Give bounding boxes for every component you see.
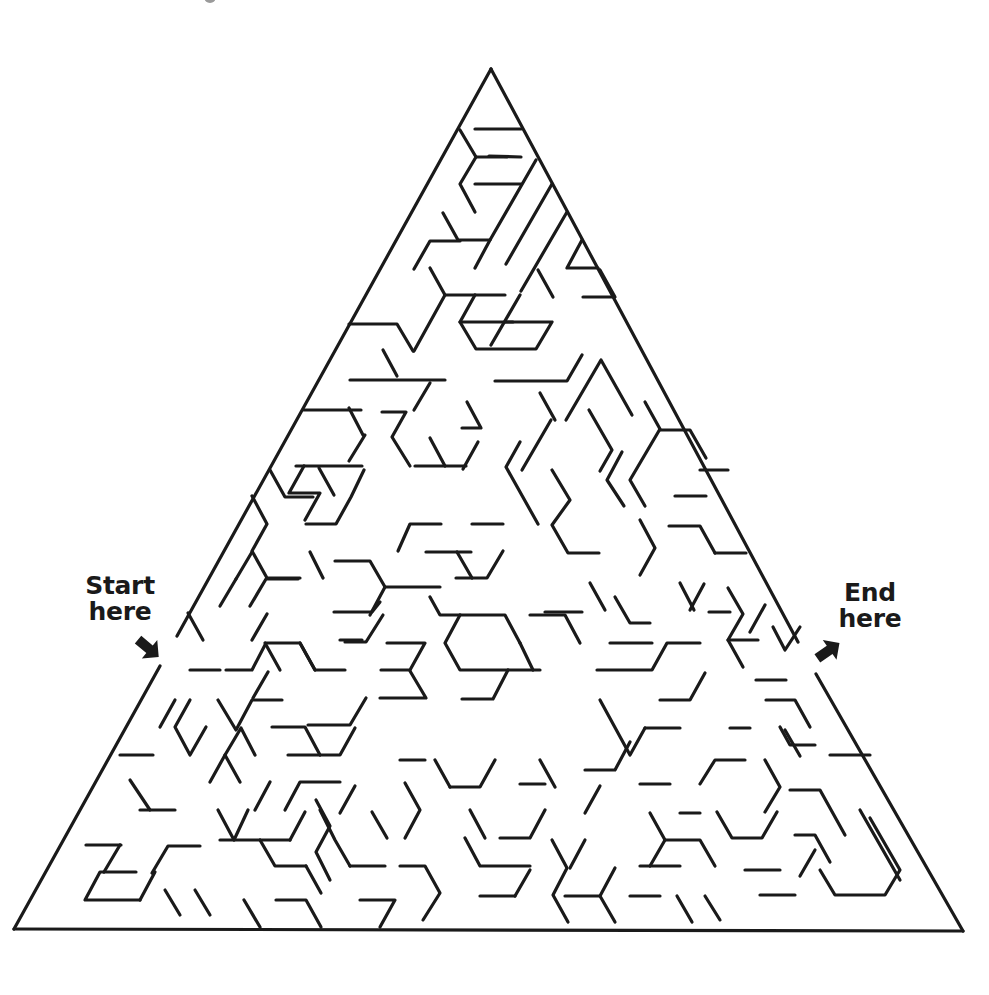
maze-wall xyxy=(522,420,551,470)
maze-wall xyxy=(414,295,445,351)
maze-outer-border xyxy=(14,69,963,931)
maze-wall xyxy=(552,840,568,922)
maze-wall xyxy=(319,468,334,495)
maze xyxy=(0,0,989,995)
maze-wall xyxy=(470,810,485,838)
maze-wall xyxy=(630,402,660,506)
maze-wall xyxy=(650,813,665,866)
maze-wall xyxy=(308,698,366,725)
maze-right-edge-upper xyxy=(491,69,798,642)
maze-wall xyxy=(565,868,615,896)
maze-wall xyxy=(405,783,420,838)
maze-wall xyxy=(445,615,540,670)
maze-wall xyxy=(860,810,900,880)
maze-wall xyxy=(457,552,472,578)
maze-wall xyxy=(585,742,630,770)
maze-wall xyxy=(590,583,605,610)
maze-wall xyxy=(265,643,280,670)
maze-wall xyxy=(750,605,765,632)
maze-wall xyxy=(383,350,397,376)
maze-wall xyxy=(669,526,715,553)
maze-wall xyxy=(195,890,210,915)
start-label-line1: Start xyxy=(78,573,162,599)
maze-wall xyxy=(289,466,320,520)
maze-wall xyxy=(450,760,495,787)
maze-left-edge-lower xyxy=(14,666,160,929)
maze-wall xyxy=(790,790,845,835)
maze-wall xyxy=(310,552,323,578)
maze-wall xyxy=(285,782,340,810)
maze-wall xyxy=(165,890,180,915)
maze-wall xyxy=(430,597,520,643)
maze-wall xyxy=(255,782,270,810)
maze-wall xyxy=(382,412,410,466)
maze-wall xyxy=(506,442,538,524)
maze-wall xyxy=(380,671,426,698)
maze-wall xyxy=(253,672,268,698)
maze-wall xyxy=(210,755,240,782)
maze-wall xyxy=(495,355,582,381)
maze-wall xyxy=(349,324,413,351)
maze-wall xyxy=(765,760,780,812)
maze-wall xyxy=(188,613,203,640)
maze-wall xyxy=(566,360,632,420)
maze-wall xyxy=(226,643,345,670)
maze-bottom-edge xyxy=(14,929,963,931)
maze-wall xyxy=(288,728,355,755)
maze-wall xyxy=(665,840,715,866)
maze-wall xyxy=(660,673,705,700)
end-label-line1: End xyxy=(828,580,912,606)
end-label-line2: here xyxy=(828,606,912,632)
maze-wall xyxy=(552,470,599,553)
maze-wall xyxy=(272,727,320,755)
maze-wall xyxy=(340,786,355,813)
maze-wall xyxy=(589,410,612,471)
maze-wall xyxy=(349,408,363,435)
maze-wall xyxy=(430,438,445,466)
maze-wall xyxy=(306,866,321,893)
maze-wall xyxy=(160,700,175,727)
maze-wall xyxy=(345,615,383,642)
maze-wall xyxy=(489,156,521,157)
maze-wall xyxy=(218,810,248,840)
maze-wall xyxy=(244,900,260,927)
maze-wall xyxy=(252,496,300,578)
maze-wall xyxy=(252,614,267,640)
maze-wall xyxy=(430,268,505,295)
maze-wall xyxy=(585,786,600,813)
maze-wall xyxy=(349,435,365,461)
maze-wall xyxy=(175,700,206,755)
maze-wall xyxy=(140,872,155,900)
maze-wall xyxy=(728,588,743,667)
maze-wall xyxy=(717,812,777,838)
maze-wall xyxy=(225,728,255,755)
maze-wall xyxy=(372,812,387,838)
maze-wall xyxy=(414,383,430,410)
maze-wall xyxy=(530,615,580,643)
maze-wall xyxy=(236,552,252,579)
maze-right-edge-lower xyxy=(816,674,963,931)
maze-wall xyxy=(435,760,450,787)
maze-wall xyxy=(567,240,598,268)
maze-wall xyxy=(300,643,315,670)
maze-wall xyxy=(680,583,694,610)
maze-wall xyxy=(462,402,481,428)
maze-wall xyxy=(800,850,815,876)
start-label-line2: here xyxy=(78,599,162,625)
maze-wall xyxy=(462,670,508,699)
maze-wall xyxy=(475,240,490,268)
maze-inner-walls xyxy=(85,129,900,927)
maze-wall xyxy=(85,872,140,900)
maze-wall xyxy=(766,700,810,727)
maze-wall xyxy=(398,524,441,551)
maze-wall xyxy=(600,700,645,755)
maze-wall xyxy=(600,896,615,922)
maze-wall xyxy=(491,295,520,345)
start-label: Start here xyxy=(78,573,162,625)
maze-wall xyxy=(607,452,624,506)
maze-wall xyxy=(130,780,150,810)
maze-wall xyxy=(360,900,395,927)
maze-wall xyxy=(316,800,330,880)
maze-wall xyxy=(260,840,306,866)
maze-wall xyxy=(290,812,305,840)
